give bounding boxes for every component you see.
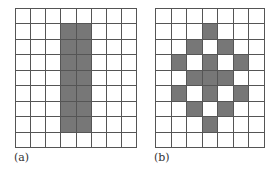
filled-pixel [61,55,76,70]
empty-pixel [92,86,107,101]
empty-pixel [203,40,219,55]
empty-pixel [218,9,234,24]
filled-pixel [61,24,76,39]
empty-pixel [46,71,61,86]
filled-pixel [187,40,203,55]
empty-pixel [122,55,137,70]
filled-pixel [218,40,234,55]
empty-pixel [218,24,234,39]
filled-pixel [203,55,219,70]
filled-pixel [203,117,219,132]
filled-pixel [61,117,76,132]
filled-pixel [77,71,92,86]
empty-pixel [92,133,107,148]
empty-pixel [16,86,31,101]
empty-pixel [122,71,137,86]
empty-pixel [46,133,61,148]
empty-pixel [218,86,234,101]
filled-pixel [61,40,76,55]
filled-pixel [187,102,203,117]
empty-pixel [187,117,203,132]
empty-pixel [122,9,137,24]
empty-pixel [156,86,172,101]
pixel-grid-a [15,8,137,148]
empty-pixel [249,9,265,24]
empty-pixel [107,9,122,24]
empty-pixel [187,86,203,101]
empty-pixel [16,55,31,70]
filled-pixel [203,86,219,101]
empty-pixel [46,9,61,24]
empty-pixel [107,102,122,117]
empty-pixel [61,133,76,148]
empty-pixel [172,40,188,55]
empty-pixel [107,117,122,132]
panel-label-b: (b) [154,151,170,164]
empty-pixel [249,55,265,70]
empty-pixel [249,117,265,132]
empty-pixel [77,133,92,148]
empty-pixel [122,24,137,39]
empty-pixel [172,117,188,132]
filled-pixel [218,71,234,86]
filled-pixel [61,86,76,101]
empty-pixel [203,133,219,148]
empty-pixel [16,117,31,132]
empty-pixel [122,117,137,132]
filled-pixel [218,102,234,117]
empty-pixel [172,71,188,86]
filled-pixel [61,102,76,117]
filled-pixel [187,71,203,86]
empty-pixel [16,40,31,55]
empty-pixel [31,86,46,101]
empty-pixel [46,40,61,55]
empty-pixel [77,9,92,24]
empty-pixel [156,24,172,39]
empty-pixel [203,9,219,24]
empty-pixel [107,24,122,39]
empty-pixel [16,133,31,148]
empty-pixel [234,102,250,117]
empty-pixel [31,40,46,55]
empty-pixel [172,24,188,39]
empty-pixel [249,133,265,148]
empty-pixel [31,102,46,117]
empty-pixel [61,9,76,24]
empty-pixel [31,9,46,24]
filled-pixel [203,71,219,86]
empty-pixel [46,102,61,117]
empty-pixel [172,102,188,117]
empty-pixel [46,117,61,132]
empty-pixel [92,102,107,117]
filled-pixel [77,86,92,101]
filled-pixel [234,86,250,101]
empty-pixel [31,55,46,70]
empty-pixel [107,86,122,101]
empty-pixel [249,24,265,39]
empty-pixel [156,9,172,24]
empty-pixel [122,86,137,101]
empty-pixel [16,102,31,117]
empty-pixel [218,117,234,132]
filled-pixel [234,55,250,70]
empty-pixel [46,55,61,70]
empty-pixel [249,40,265,55]
filled-pixel [172,86,188,101]
empty-pixel [107,71,122,86]
empty-pixel [249,86,265,101]
filled-pixel [77,102,92,117]
empty-pixel [234,40,250,55]
empty-pixel [218,55,234,70]
empty-pixel [187,133,203,148]
empty-pixel [92,24,107,39]
empty-pixel [92,40,107,55]
empty-pixel [122,102,137,117]
empty-pixel [203,102,219,117]
empty-pixel [46,24,61,39]
empty-pixel [16,71,31,86]
empty-pixel [156,71,172,86]
empty-pixel [218,133,234,148]
filled-pixel [61,71,76,86]
empty-pixel [92,9,107,24]
empty-pixel [46,86,61,101]
